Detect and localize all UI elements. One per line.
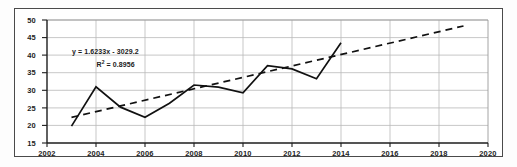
- x-tick-label-2008: 2008: [177, 149, 211, 158]
- x-tick-label-2004: 2004: [79, 149, 113, 158]
- vertical-gridlines: [96, 20, 439, 143]
- y-tick-label-25: 25: [16, 104, 36, 113]
- trendline-dashed-path: [72, 26, 464, 117]
- y-axis-ticks: [42, 20, 47, 143]
- chart-figure: 50 45 40 35 30 25 20 15 2002 2004 2006 2…: [0, 0, 517, 167]
- x-tick-label-2014: 2014: [324, 149, 358, 158]
- y-tick-label-40: 40: [16, 51, 36, 60]
- x-tick-label-2006: 2006: [128, 149, 162, 158]
- plot-area-border: [47, 20, 488, 143]
- x-tick-label-2002: 2002: [30, 149, 64, 158]
- trendline-equation-text: y = 1.6233x - 3029.2: [72, 47, 139, 57]
- x-tick-label-2010: 2010: [226, 149, 260, 158]
- horizontal-gridlines: [47, 20, 488, 125]
- y-tick-label-50: 50: [16, 16, 36, 25]
- y-tick-label-35: 35: [16, 68, 36, 77]
- y-tick-label-20: 20: [16, 121, 36, 130]
- y-tick-label-45: 45: [16, 33, 36, 42]
- x-tick-label-2020: 2020: [471, 149, 505, 158]
- r-squared-value: = 0.8956: [105, 61, 135, 68]
- y-tick-label-30: 30: [16, 86, 36, 95]
- x-tick-label-2016: 2016: [373, 149, 407, 158]
- x-tick-label-2018: 2018: [422, 149, 456, 158]
- x-tick-label-2012: 2012: [275, 149, 309, 158]
- trendline-equation-block: y = 1.6233x - 3029.2 R2 = 0.8956: [72, 47, 139, 70]
- y-tick-label-15: 15: [16, 139, 36, 148]
- trendline-r-squared-text: R2 = 0.8956: [72, 57, 139, 70]
- chart-plot-svg: [0, 0, 517, 167]
